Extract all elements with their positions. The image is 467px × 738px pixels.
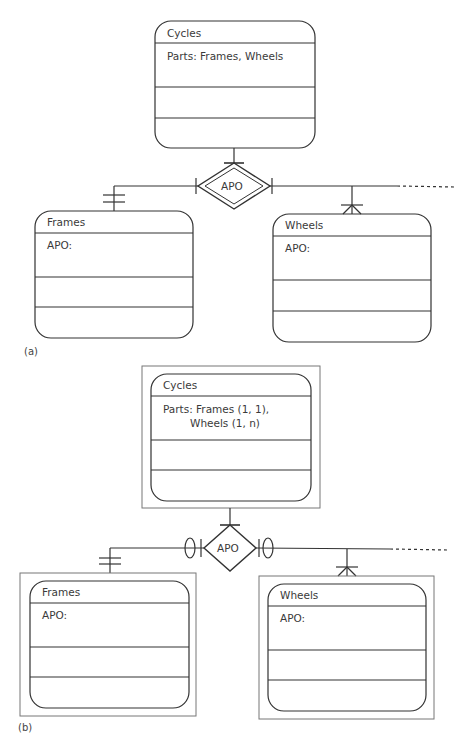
- diagram-a: [35, 21, 455, 342]
- entity-attribute: APO:: [42, 609, 67, 621]
- entity-attribute: APO:: [285, 242, 310, 254]
- entity-attribute: APO:: [280, 612, 305, 624]
- entity-cycles-a[interactable]: [155, 21, 315, 148]
- entity-attribute: Parts: Frames, Wheels: [167, 50, 283, 62]
- entity-wheels-a[interactable]: [273, 214, 431, 342]
- entity-title: Cycles: [163, 379, 197, 391]
- entity-attribute: Parts: Frames (1, 1),: [163, 403, 269, 415]
- entity-title: Frames: [47, 216, 85, 228]
- entity-attribute: APO:: [47, 239, 72, 251]
- relationship-label: APO: [217, 542, 239, 554]
- entity-frames-b[interactable]: [30, 581, 189, 708]
- entity-wheels-b[interactable]: [268, 584, 426, 711]
- caption-a: (a): [24, 346, 38, 357]
- relationship-label: APO: [221, 180, 243, 192]
- caption-b: (b): [18, 722, 32, 733]
- entity-title: Frames: [42, 586, 80, 598]
- apo-diagrams: Cycles Parts: Frames, Wheels APO Frames …: [0, 0, 467, 738]
- entity-cycles-b[interactable]: [151, 374, 311, 501]
- entity-title: Wheels: [280, 589, 318, 601]
- entity-title: Wheels: [285, 219, 323, 231]
- entity-title: Cycles: [167, 27, 201, 39]
- entity-attribute: Wheels (1, n): [190, 417, 260, 429]
- entity-frames-a[interactable]: [35, 211, 193, 338]
